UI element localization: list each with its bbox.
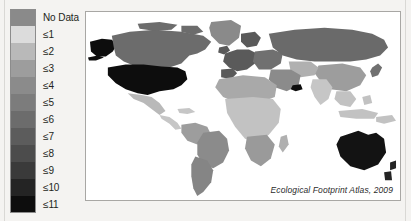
legend-item-le-9[interactable]: ≤9 (10, 162, 82, 179)
legend-swatch-le-5 (10, 94, 36, 111)
legend-label-le-3: ≤3 (43, 63, 54, 74)
legend-label-le-8: ≤8 (43, 148, 54, 159)
legend-label-le-10: ≤10 (43, 182, 59, 193)
legend-item-le-6[interactable]: ≤6 (10, 111, 82, 128)
map-legend: No Data ≤1 ≤2 ≤3 ≤4 ≤5 ≤6 ≤7 (10, 9, 82, 213)
legend-item-le-2[interactable]: ≤2 (10, 43, 82, 60)
legend-item-le-3[interactable]: ≤3 (10, 60, 82, 77)
page-rule-left (4, 0, 5, 221)
legend-label-le-2: ≤2 (43, 46, 54, 57)
legend-label-le-5: ≤5 (43, 97, 54, 108)
legend-item-le-5[interactable]: ≤5 (10, 94, 82, 111)
legend-label-le-7: ≤7 (43, 131, 54, 142)
world-map-svg[interactable] (86, 12, 400, 200)
ecological-footprint-figure: No Data ≤1 ≤2 ≤3 ≤4 ≤5 ≤6 ≤7 (0, 0, 411, 221)
legend-item-le-10[interactable]: ≤10 (10, 179, 82, 196)
map-panel[interactable]: Ecological Footprint Atlas, 2009 (85, 11, 401, 201)
legend-swatch-le-1 (10, 26, 36, 43)
page-rule-right (405, 0, 406, 221)
legend-label-le-1: ≤1 (43, 29, 54, 40)
legend-swatch-le-10 (10, 179, 36, 196)
legend-swatch-le-8 (10, 145, 36, 162)
legend-swatch-le-7 (10, 128, 36, 145)
legend-swatch-le-2 (10, 43, 36, 60)
legend-swatch-le-9 (10, 162, 36, 179)
map-attribution: Ecological Footprint Atlas, 2009 (271, 185, 393, 195)
legend-swatch-no-data (10, 9, 36, 26)
legend-swatch-le-3 (10, 60, 36, 77)
region-new-zealand-south[interactable] (384, 171, 392, 180)
legend-swatch-le-11 (10, 196, 36, 213)
legend-item-le-8[interactable]: ≤8 (10, 145, 82, 162)
legend-label-no-data: No Data (43, 12, 79, 23)
legend-item-le-7[interactable]: ≤7 (10, 128, 82, 145)
legend-item-le-1[interactable]: ≤1 (10, 26, 82, 43)
legend-item-le-4[interactable]: ≤4 (10, 77, 82, 94)
legend-swatch-le-4 (10, 77, 36, 94)
legend-label-le-4: ≤4 (43, 80, 54, 91)
legend-label-le-11: ≤11 (43, 199, 59, 210)
legend-label-le-6: ≤6 (43, 114, 54, 125)
legend-item-no-data[interactable]: No Data (10, 9, 82, 26)
legend-swatch-le-6 (10, 111, 36, 128)
legend-label-le-9: ≤9 (43, 165, 54, 176)
legend-item-le-11[interactable]: ≤11 (10, 196, 82, 213)
